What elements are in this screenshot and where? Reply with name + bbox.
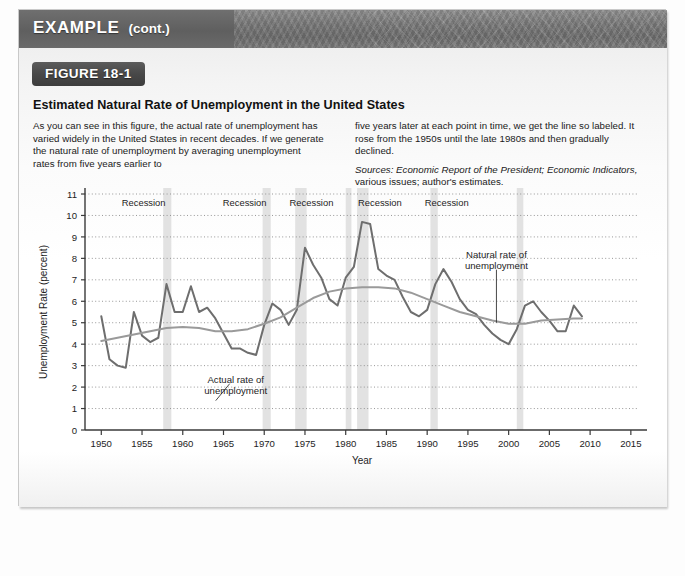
unemployment-line-chart: 0123456789101119501955196019651970197519… <box>33 180 653 485</box>
x-tick-label: 1985 <box>376 438 397 449</box>
x-tick-label: 1975 <box>294 438 315 449</box>
y-tick-label: 3 <box>72 360 77 371</box>
y-tick-label: 1 <box>72 403 77 414</box>
sources-italic-part: Economic Report of the President; Econom… <box>396 164 637 175</box>
caption-text-right: five years later at each point in time, … <box>355 120 647 158</box>
recession-label: Recession <box>358 197 402 208</box>
y-tick-label: 9 <box>72 232 77 243</box>
recession-band <box>517 188 524 430</box>
y-tick-label: 5 <box>72 317 77 328</box>
x-axis-title: Year <box>352 455 373 466</box>
x-tick-label: 1990 <box>417 438 438 449</box>
y-tick-label: 2 <box>72 382 77 393</box>
y-tick-label: 4 <box>72 339 78 350</box>
chart-container: 0123456789101119501955196019651970197519… <box>33 180 653 485</box>
recession-band <box>430 188 437 430</box>
page-root: EXAMPLE(cont.) FIGURE 18-1 Estimated Nat… <box>0 0 685 576</box>
x-tick-label: 1950 <box>91 438 112 449</box>
actual-rate-annotation-line1: Actual rate of <box>207 374 264 385</box>
y-tick-label: 8 <box>72 253 77 264</box>
y-axis-title: Unemployment Rate (percent) <box>38 245 49 379</box>
recession-band <box>357 188 368 430</box>
x-tick-label: 2000 <box>498 438 519 449</box>
y-tick-label: 7 <box>72 274 77 285</box>
x-tick-label: 1965 <box>213 438 234 449</box>
example-label: EXAMPLE <box>33 18 119 37</box>
x-tick-label: 2015 <box>620 438 641 449</box>
figure-body: FIGURE 18-1 Estimated Natural Rate of Un… <box>19 48 667 507</box>
y-tick-label: 6 <box>72 296 77 307</box>
example-header-text: EXAMPLE(cont.) <box>33 18 170 38</box>
recession-label: Recession <box>425 197 469 208</box>
x-tick-label: 1960 <box>172 438 193 449</box>
example-header-bar: EXAMPLE(cont.) <box>19 10 667 48</box>
x-tick-label: 2010 <box>579 438 600 449</box>
caption-column-right: five years later at each point in time, … <box>355 120 647 189</box>
recession-label: Recession <box>223 197 267 208</box>
actual-rate-annotation-line2: unemployment <box>204 385 267 396</box>
recession-band <box>163 188 171 430</box>
caption-column-left: As you can see in this figure, the actua… <box>33 120 325 170</box>
figure-card: EXAMPLE(cont.) FIGURE 18-1 Estimated Nat… <box>18 9 666 506</box>
figure-title: Estimated Natural Rate of Unemployment i… <box>33 98 633 112</box>
recession-label: Recession <box>290 197 334 208</box>
natural-rate-annotation-line2: unemployment <box>465 260 528 271</box>
x-tick-label: 1980 <box>335 438 356 449</box>
y-tick-label: 10 <box>66 210 77 221</box>
y-tick-label: 0 <box>72 425 77 436</box>
recession-label: Recession <box>122 197 166 208</box>
example-cont-label: (cont.) <box>128 21 169 36</box>
series-line <box>101 222 582 368</box>
y-tick-label: 11 <box>67 189 77 200</box>
x-tick-label: 1995 <box>457 438 478 449</box>
x-tick-label: 1955 <box>131 438 152 449</box>
x-tick-label: 1970 <box>254 438 275 449</box>
sources-label: Sources: <box>355 164 393 175</box>
figure-number-badge: FIGURE 18-1 <box>32 62 145 86</box>
series-line <box>101 287 582 341</box>
x-tick-label: 2005 <box>539 438 560 449</box>
recession-band <box>346 188 352 430</box>
caption-text-left: As you can see in this figure, the actua… <box>33 120 325 170</box>
natural-rate-annotation-line1: Natural rate of <box>466 249 527 260</box>
